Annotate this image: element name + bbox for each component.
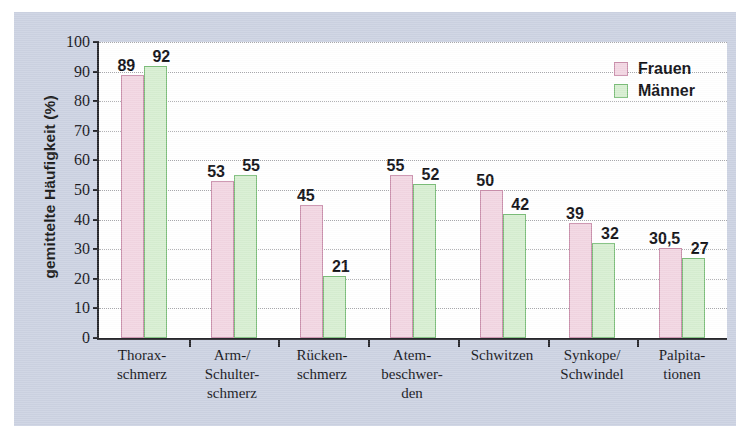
legend-swatch-maenner-icon — [614, 84, 628, 98]
bar-value-label: 53 — [207, 164, 225, 180]
y-axis-tick-label: 40 — [74, 211, 90, 229]
bar-group: 8992 — [99, 42, 189, 338]
bar-value-label: 55 — [242, 158, 260, 174]
y-axis-tick-label: 30 — [74, 240, 90, 258]
bar-value-label: 21 — [332, 259, 350, 275]
x-axis-category-labels: Thorax-schmerzArm-/Schulter-schmerzRücke… — [97, 346, 727, 404]
y-axis-tick-label: 60 — [74, 151, 90, 169]
bar-group: 5042 — [458, 42, 548, 338]
y-axis-tick-label: 80 — [74, 92, 90, 110]
bar-maenner[interactable]: 21 — [323, 276, 346, 338]
legend-label-maenner: Männer — [638, 82, 695, 100]
bar-frauen[interactable]: 89 — [121, 75, 144, 338]
bar-value-label: 89 — [117, 58, 135, 74]
legend-item-frauen[interactable]: Frauen — [614, 58, 695, 80]
bar-value-label: 55 — [387, 158, 405, 174]
legend-item-maenner[interactable]: Männer — [614, 80, 695, 102]
x-axis-category-label: Thorax-schmerz — [97, 346, 187, 404]
bar-value-label: 30,5 — [649, 231, 680, 247]
x-axis-category-label: Schwitzen — [457, 346, 547, 404]
x-axis-category-label: Synkope/Schwindel — [547, 346, 637, 404]
bar-maenner[interactable]: 55 — [234, 175, 257, 338]
bar-value-label: 50 — [476, 173, 494, 189]
bar-maenner[interactable]: 42 — [503, 214, 526, 338]
bar-maenner[interactable]: 92 — [144, 66, 167, 338]
bar-frauen[interactable]: 53 — [211, 181, 234, 338]
x-axis-category-label: Rücken-schmerz — [277, 346, 367, 404]
bar-value-label: 39 — [566, 206, 584, 222]
bar-frauen[interactable]: 50 — [480, 190, 503, 338]
y-axis-tick-label: 100 — [66, 33, 90, 51]
bar-value-label: 52 — [422, 167, 440, 183]
y-axis-tick-label: 90 — [74, 63, 90, 81]
bar-maenner[interactable]: 32 — [592, 243, 615, 338]
bar-group: 4521 — [278, 42, 368, 338]
bar-frauen[interactable]: 45 — [300, 205, 323, 338]
y-axis-title: gemittelte Häufigkeit (%) — [41, 57, 59, 317]
bar-group: 5552 — [368, 42, 458, 338]
figure-panel: gemittelte Häufigkeit (%) 01020304050607… — [14, 12, 736, 426]
bar-maenner[interactable]: 27 — [682, 258, 705, 338]
x-axis-category-label: Arm-/Schulter-schmerz — [187, 346, 277, 404]
bar-value-label: 27 — [691, 241, 709, 257]
x-axis-category-label: Palpita-tionen — [637, 346, 727, 404]
x-axis-category-label: Atem-beschwer-den — [367, 346, 457, 404]
y-axis-tick-label: 50 — [74, 181, 90, 199]
bar-frauen[interactable]: 39 — [569, 223, 592, 338]
bar-group: 5355 — [189, 42, 279, 338]
y-axis-tick-label: 10 — [74, 299, 90, 317]
legend: Frauen Männer — [614, 58, 695, 102]
y-axis-tick-label: 0 — [82, 329, 90, 347]
bar-frauen[interactable]: 30,5 — [659, 248, 682, 338]
y-axis-tick-label: 70 — [74, 122, 90, 140]
y-axis-tick-label: 20 — [74, 270, 90, 288]
bar-maenner[interactable]: 52 — [413, 184, 436, 338]
bar-value-label: 45 — [297, 188, 315, 204]
bar-value-label: 42 — [511, 197, 529, 213]
bar-frauen[interactable]: 55 — [390, 175, 413, 338]
bar-value-label: 92 — [152, 49, 170, 65]
bar-value-label: 32 — [601, 226, 619, 242]
legend-swatch-frauen-icon — [614, 62, 628, 76]
legend-label-frauen: Frauen — [638, 60, 691, 78]
